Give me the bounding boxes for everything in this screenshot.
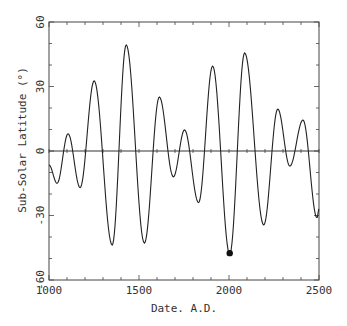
series-curve — [49, 45, 319, 254]
x-tick-labels: 1000150020002500 — [36, 284, 333, 297]
x-tick-label: 2500 — [306, 284, 333, 297]
x-axis-label: Date. A.D. — [151, 302, 217, 315]
x-tick-label: 1500 — [126, 284, 153, 297]
y-tick-label: 30 — [34, 80, 47, 93]
series-line — [49, 45, 319, 254]
data-marker-point — [227, 250, 233, 256]
y-tick-label: 0 — [34, 148, 47, 155]
y-tick-label: -60 — [34, 270, 47, 290]
chart: 1000150020002500 -60-3003060 Date. A.D. … — [0, 0, 347, 326]
x-tick-label: 2000 — [216, 284, 243, 297]
y-axis-label: Sub-Solar Latitude (°) — [16, 67, 29, 213]
y-tick-label: 60 — [34, 15, 47, 28]
y-tick-label: -30 — [34, 206, 47, 226]
annotation-marker — [227, 250, 233, 256]
y-tick-labels: -60-3003060 — [34, 15, 47, 290]
